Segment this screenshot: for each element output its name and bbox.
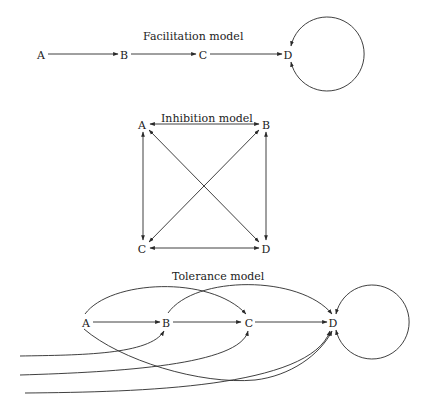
facilitation-node-c: C	[199, 50, 207, 61]
tolerance-node-a: A	[82, 318, 90, 329]
facilitation-node-d: D	[284, 50, 293, 61]
tolerance-node-d: D	[329, 318, 338, 329]
inhibition-node-d: D	[262, 244, 271, 255]
facilitation-node-a: A	[37, 50, 45, 61]
inhibition-node-a: A	[138, 120, 146, 131]
facilitation-title: Facilitation model	[143, 31, 243, 42]
inhibition-edges	[143, 124, 266, 248]
tolerance-node-b: B	[162, 318, 170, 329]
inhibition-node-b: B	[262, 120, 270, 131]
diagram-canvas	[0, 0, 429, 409]
tolerance-title: Tolerance model	[172, 271, 264, 282]
inhibition-node-c: C	[138, 244, 146, 255]
tolerance-node-c: C	[245, 318, 253, 329]
facilitation-node-b: B	[120, 50, 128, 61]
tolerance-edges	[20, 285, 409, 393]
inhibition-title: Inhibition model	[161, 113, 253, 124]
